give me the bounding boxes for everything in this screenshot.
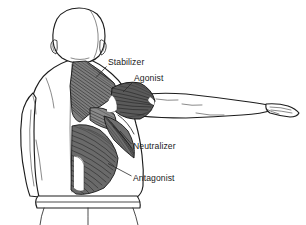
hand [266, 104, 299, 117]
anatomy-illustration: Stabilizer Agonist Neutralizer Antagonis… [0, 0, 306, 225]
anatomy-figure: Stabilizer Agonist Neutralizer Antagonis… [0, 0, 306, 225]
leg-left [40, 208, 44, 225]
leg-right [133, 208, 138, 225]
label-neutralizer: Neutralizer [133, 141, 176, 151]
head [53, 8, 105, 63]
label-agonist: Agonist [134, 73, 164, 83]
label-stabilizer: Stabilizer [108, 57, 144, 67]
label-antagonist: Antagonist [133, 173, 175, 183]
muscle-deltoid [112, 81, 156, 119]
